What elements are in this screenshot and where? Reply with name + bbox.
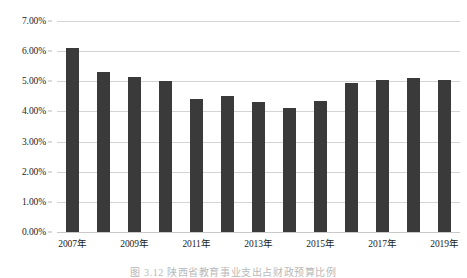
bar-chart-figure: 0.00%1.00%2.00%3.00%4.00%5.00%6.00%7.00%… xyxy=(0,0,467,278)
bar xyxy=(221,96,234,232)
bar xyxy=(128,77,141,232)
y-axis: 0.00%1.00%2.00%3.00%4.00%5.00%6.00%7.00% xyxy=(0,21,52,232)
x-axis-tick-label: 2013年 xyxy=(244,236,273,250)
x-axis-tick-label: 2019年 xyxy=(430,236,459,250)
bar xyxy=(345,83,358,232)
bar xyxy=(159,81,172,232)
y-axis-tick-label: 6.00% xyxy=(22,46,46,56)
gridline xyxy=(57,232,460,233)
bar xyxy=(376,80,389,232)
x-axis-tick-label: 2007年 xyxy=(58,236,87,250)
bar xyxy=(66,48,79,232)
bar xyxy=(190,99,203,232)
y-axis-tick-label: 0.00% xyxy=(22,227,46,237)
bar xyxy=(97,72,110,232)
y-tick-mark xyxy=(48,232,52,233)
y-axis-tick-label: 1.00% xyxy=(22,197,46,207)
y-axis-tick-label: 5.00% xyxy=(22,76,46,86)
bar xyxy=(252,102,265,232)
y-tick-mark xyxy=(48,141,52,142)
y-axis-tick-label: 7.00% xyxy=(22,16,46,26)
y-tick-mark xyxy=(48,51,52,52)
x-axis-tick-label: 2011年 xyxy=(182,236,210,250)
plot-area xyxy=(57,21,460,232)
y-tick-mark xyxy=(48,21,52,22)
bar xyxy=(438,80,451,232)
x-axis-tick-label: 2015年 xyxy=(306,236,335,250)
x-axis-tick-label: 2017年 xyxy=(368,236,397,250)
bar xyxy=(283,108,296,232)
y-axis-tick-label: 3.00% xyxy=(22,137,46,147)
figure-caption: 图 3.12 陕西省教育事业支出占财政预算比例 xyxy=(0,264,467,278)
bars-series xyxy=(57,21,460,232)
y-tick-mark xyxy=(48,81,52,82)
x-axis: 2007年2009年2011年2013年2015年2017年2019年 xyxy=(57,236,460,252)
y-axis-tick-label: 2.00% xyxy=(22,167,46,177)
bar xyxy=(407,78,420,232)
y-tick-mark xyxy=(48,171,52,172)
y-tick-mark xyxy=(48,201,52,202)
bar xyxy=(314,101,327,232)
y-tick-mark xyxy=(48,111,52,112)
x-axis-tick-label: 2009年 xyxy=(120,236,149,250)
y-axis-tick-label: 4.00% xyxy=(22,106,46,116)
